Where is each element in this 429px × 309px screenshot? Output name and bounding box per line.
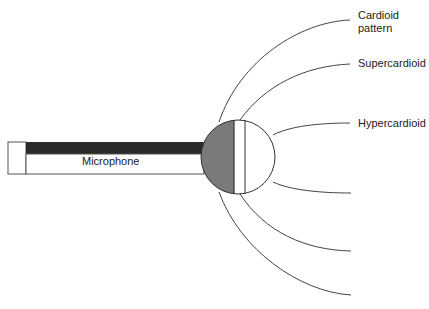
mic-end-cap [8,142,26,174]
microphone-label: Microphone [82,155,202,167]
supercardioid-label: Supercardioid [358,57,426,70]
cardioid-label: Cardioid pattern [358,9,399,35]
hypercardioid-label: Hypercardioid [358,117,426,130]
supercardioid-curve-bottom [240,194,351,251]
hypercardioid-curve-bottom [273,182,351,193]
mic-dark-bar [26,142,204,154]
cardioid-label-line1: Cardioid [358,9,399,22]
cardioid-curve-top [219,20,350,122]
hypercardioid-curve-top [273,123,350,135]
cardioid-label-line2: pattern [358,22,399,35]
cardioid-curve-bottom [219,192,351,295]
supercardioid-curve-top [240,64,350,120]
microphone-polar-diagram [0,0,429,309]
